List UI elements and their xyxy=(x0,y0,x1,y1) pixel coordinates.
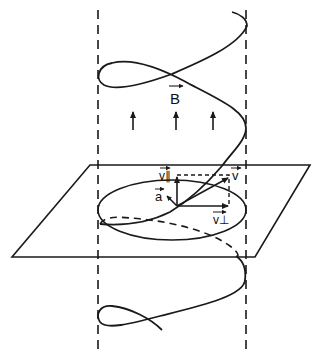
helix-top-segment xyxy=(99,12,247,166)
v-parallel-label: v∥ xyxy=(159,169,171,183)
field-label-text: B xyxy=(170,90,180,107)
field-arrows xyxy=(133,112,213,130)
field-label: B xyxy=(169,86,183,107)
acceleration-label: a xyxy=(155,189,163,204)
acceleration-arrow xyxy=(167,196,177,206)
diagram-canvas: B v∥ v a v⊥ xyxy=(0,0,316,361)
helix-diagram: B v∥ v a v⊥ xyxy=(0,0,316,361)
velocity-label: v xyxy=(232,168,239,183)
v-perp-label: v⊥ xyxy=(213,213,229,227)
helix-lower-segment xyxy=(98,256,245,330)
helix-path xyxy=(98,12,247,330)
